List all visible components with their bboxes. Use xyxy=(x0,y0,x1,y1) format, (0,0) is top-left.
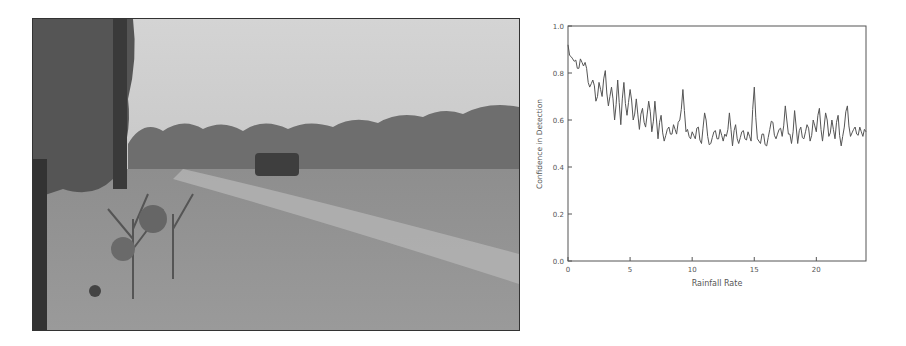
x-tick-label: 5 xyxy=(628,266,632,274)
confidence-chart: 0.00.20.40.60.81.0 05101520 Rainfall Rat… xyxy=(528,14,878,294)
vehicle xyxy=(255,153,299,176)
tree-trunk-left xyxy=(33,159,47,330)
y-axis-ticks: 0.00.20.40.60.81.0 xyxy=(553,23,572,266)
x-tick-label: 20 xyxy=(812,266,821,274)
y-tick-label: 0.8 xyxy=(553,70,564,78)
scene-photo xyxy=(32,18,520,331)
x-tick-label: 15 xyxy=(750,266,759,274)
confidence-series-line xyxy=(568,45,866,146)
scene-illustration xyxy=(33,19,519,330)
y-tick-label: 0.6 xyxy=(553,117,565,125)
plot-frame xyxy=(568,26,866,261)
y-axis-label: Confidence in Detection xyxy=(535,99,544,189)
tree-trunk xyxy=(113,19,127,189)
y-tick-label: 0.0 xyxy=(553,258,564,266)
x-tick-label: 0 xyxy=(566,266,570,274)
line-chart: 0.00.20.40.60.81.0 05101520 Rainfall Rat… xyxy=(528,14,878,294)
y-tick-label: 0.4 xyxy=(553,164,565,172)
x-axis-ticks: 05101520 xyxy=(566,257,821,274)
y-tick-label: 0.2 xyxy=(553,211,564,219)
x-axis-label: Rainfall Rate xyxy=(692,279,743,288)
y-tick-label: 1.0 xyxy=(553,23,564,31)
x-tick-label: 10 xyxy=(688,266,697,274)
